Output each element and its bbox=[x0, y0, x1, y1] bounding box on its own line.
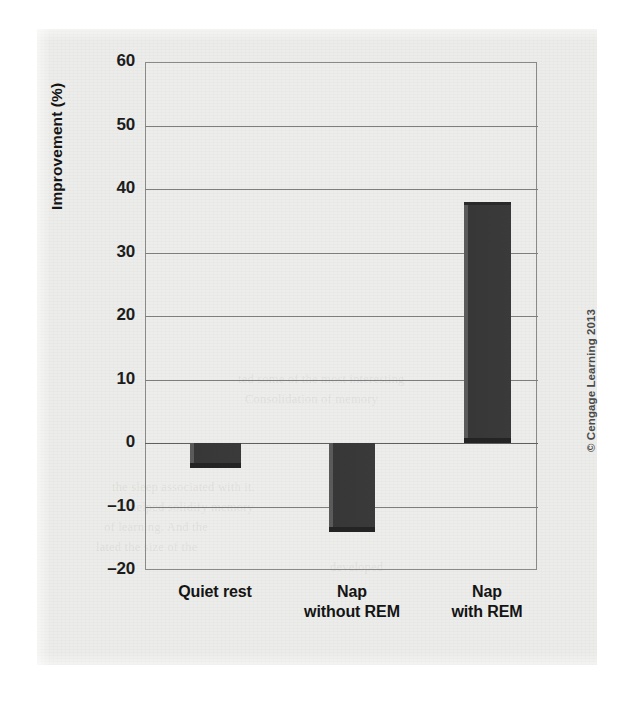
y-tick-label-10: 10 bbox=[81, 369, 135, 389]
copyright-credit: © Cengage Learning 2013 bbox=[585, 309, 597, 452]
y-tick-label-50: 50 bbox=[81, 115, 135, 135]
bar-bottom-edge bbox=[190, 463, 241, 468]
y-tick-label-30: 30 bbox=[81, 242, 135, 262]
bar-chart: ted some of the most interestingConsolid… bbox=[0, 0, 634, 709]
bar-top-edge bbox=[464, 202, 511, 205]
gridline-50 bbox=[145, 126, 538, 127]
bar-1 bbox=[329, 443, 375, 532]
bar-bottom-edge bbox=[464, 438, 511, 443]
category-label-2: Napwith REM bbox=[397, 582, 577, 622]
category-label-line: with REM bbox=[397, 602, 577, 622]
bar-face bbox=[464, 202, 511, 443]
bar-0 bbox=[190, 443, 241, 468]
y-tick-label-60: 60 bbox=[81, 51, 135, 71]
y-tick-label-40: 40 bbox=[81, 178, 135, 198]
bar-face bbox=[329, 443, 375, 532]
y-tick-label--10: –10 bbox=[81, 496, 135, 516]
y-tick-label-0: 0 bbox=[81, 432, 135, 452]
bar-2 bbox=[464, 202, 511, 443]
y-axis-title: Improvement (%) bbox=[48, 0, 66, 210]
bar-bottom-edge bbox=[329, 527, 375, 532]
y-tick-label--20: –20 bbox=[81, 559, 135, 579]
category-label-line: Nap bbox=[397, 582, 577, 602]
gridline-40 bbox=[145, 189, 538, 190]
y-tick-label-20: 20 bbox=[81, 305, 135, 325]
